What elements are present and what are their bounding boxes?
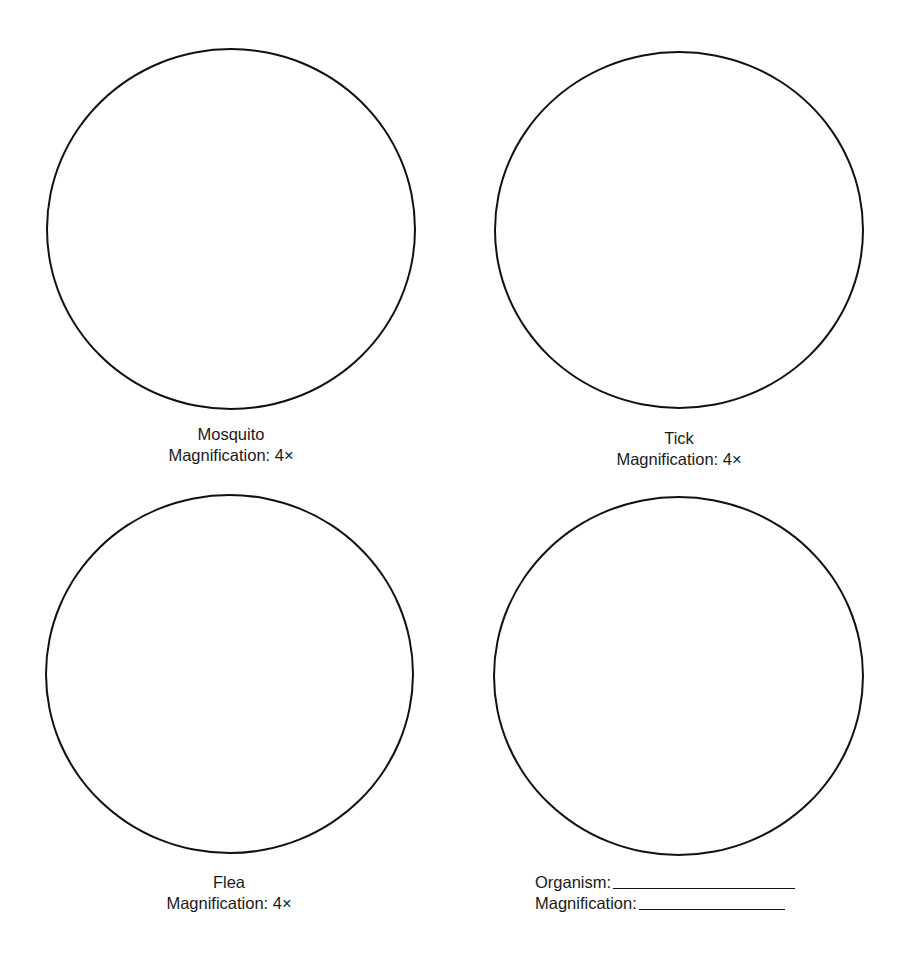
magnification-blank-line[interactable] xyxy=(639,895,785,910)
tick-view-circle xyxy=(494,51,864,409)
flea-view-circle xyxy=(45,494,414,854)
magnification-label: Magnification: 4× xyxy=(131,445,331,466)
magnification-label: Magnification: 4× xyxy=(129,893,329,914)
magnification-row: Magnification: xyxy=(535,893,825,914)
blank-panel-form: Organism: Magnification: xyxy=(535,872,825,914)
flea-caption: Flea Magnification: 4× xyxy=(129,872,329,914)
organism-row: Organism: xyxy=(535,872,825,893)
organism-blank-line[interactable] xyxy=(613,874,795,889)
organism-name: Tick xyxy=(579,428,779,449)
organism-name: Flea xyxy=(129,872,329,893)
tick-caption: Tick Magnification: 4× xyxy=(579,428,779,470)
organism-name: Mosquito xyxy=(131,424,331,445)
magnification-label: Magnification: xyxy=(535,893,637,914)
mosquito-caption: Mosquito Magnification: 4× xyxy=(131,424,331,466)
mosquito-view-circle xyxy=(46,48,416,410)
magnification-label: Magnification: 4× xyxy=(579,449,779,470)
organism-label: Organism: xyxy=(535,872,611,893)
blank-view-circle xyxy=(493,496,864,856)
